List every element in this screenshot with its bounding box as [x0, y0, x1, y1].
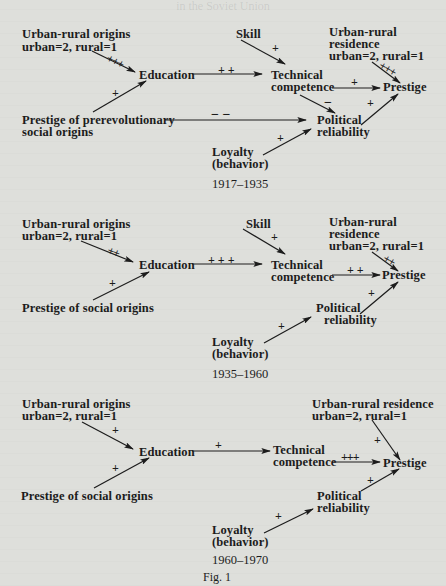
- node-loyalty-line2: (behavior): [212, 348, 269, 361]
- arrow-social-education: [94, 458, 149, 488]
- sign-education-technical: +: [215, 439, 222, 451]
- sign-technical-prestige: +++: [341, 451, 359, 463]
- node-prestige: Prestige: [383, 81, 427, 94]
- arrow-loyalty-political: [264, 317, 311, 343]
- page: in the Soviet Union: [0, 0, 446, 586]
- sign-loyalty-political: +: [278, 320, 285, 332]
- node-skill: Skill: [236, 28, 261, 41]
- node-education: Education: [139, 446, 195, 459]
- sign-technical-prestige: + +: [347, 264, 364, 276]
- arrow-origins-education: [82, 422, 133, 449]
- sign-skill-technical: +: [272, 42, 279, 54]
- node-loyalty-line2: (behavior): [212, 158, 269, 171]
- node-urban-rural-residence-coding: urban=2, rural=1: [329, 50, 424, 63]
- node-urban-rural-residence-coding: urban=2, rural=1: [312, 410, 407, 423]
- sign-political-prestige: +: [367, 97, 374, 109]
- sign-technical-political: −: [324, 97, 332, 109]
- node-prestige-social-origins: Prestige of social origins: [21, 490, 153, 503]
- sign-social-education: +: [112, 87, 119, 99]
- node-political-reliability-line2: reliability: [317, 126, 370, 139]
- sign-political-prestige: +: [368, 287, 375, 299]
- node-education: Education: [139, 259, 195, 272]
- sign-loyalty-political: +: [277, 132, 284, 144]
- sign-loyalty-political: +: [275, 510, 282, 522]
- node-political-reliability-line2: reliability: [317, 502, 370, 515]
- arrow-social-education: [93, 272, 149, 300]
- node-prestige: Prestige: [382, 269, 426, 282]
- node-prestige-social-origins-line2: social origins: [22, 126, 93, 139]
- sign-residence-prestige: +: [374, 434, 381, 446]
- sign-political-prestige: +: [367, 474, 374, 486]
- node-urban-rural-origins-coding: urban=2, rural=1: [22, 410, 117, 423]
- sign-education-technical: + +: [218, 64, 235, 76]
- period-label: 1960–1970: [212, 554, 268, 567]
- period-label: 1917–1935: [212, 178, 268, 191]
- arrow-political-prestige: [360, 282, 398, 314]
- node-urban-rural-origins-coding: urban=2, rural=1: [22, 230, 117, 243]
- figure-caption: Fig. 1: [203, 570, 231, 585]
- arrow-skill-technical: [243, 229, 285, 254]
- node-technical-competence-line2: competence: [271, 81, 334, 94]
- node-urban-rural-residence-coding: urban=2, rural=1: [329, 240, 424, 253]
- node-technical-competence-line2: competence: [271, 271, 334, 284]
- node-urban-rural-origins: Urban-rural origins: [22, 28, 131, 41]
- sign-technical-prestige: +: [351, 76, 358, 88]
- sign-social-political: − −: [211, 109, 230, 121]
- sign-origins-education: +: [112, 424, 119, 436]
- arrow-social-education: [93, 81, 146, 112]
- arrow-loyalty-political: [264, 509, 313, 533]
- period-label: 1935–1960: [212, 368, 268, 381]
- node-technical-competence-line2: competence: [273, 456, 336, 469]
- sign-education-technical: + + +: [208, 254, 235, 266]
- sign-social-education: +: [112, 462, 119, 474]
- node-skill: Skill: [246, 218, 271, 231]
- node-political-reliability-line2: reliability: [324, 314, 377, 327]
- node-prestige-social-origins: Prestige of social origins: [22, 302, 154, 315]
- sign-social-education: +: [109, 277, 116, 289]
- node-education: Education: [139, 69, 195, 82]
- node-prestige: Prestige: [383, 457, 427, 470]
- node-urban-rural-origins-coding: urban=2, rural=1: [22, 41, 117, 54]
- sign-skill-technical: +: [271, 231, 278, 243]
- arrow-loyalty-political: [263, 129, 311, 155]
- node-loyalty-line2: (behavior): [212, 536, 269, 549]
